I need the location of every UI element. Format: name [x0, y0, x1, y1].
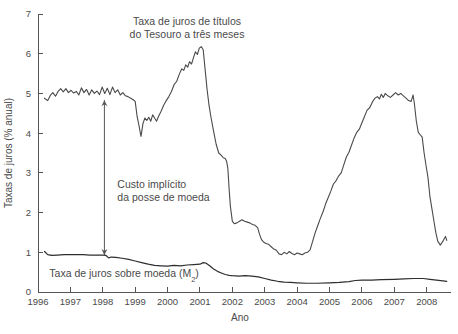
y-tick-label: 1 — [26, 247, 31, 258]
x-tick-label: 2001 — [189, 296, 210, 307]
chart-axes — [38, 14, 451, 292]
x-axis-tick-labels: 1996199719981999200020012002200320042005… — [27, 296, 437, 307]
x-tick-label: 2002 — [222, 296, 243, 307]
money-rate-label: Taxa de juros sobre moeda (M2) — [49, 267, 199, 284]
x-tick-label: 2006 — [351, 296, 372, 307]
implicit-cost-arrow — [101, 100, 107, 255]
x-tick-label: 2005 — [319, 296, 340, 307]
y-tick-label: 4 — [26, 128, 31, 139]
y-tick-label: 2 — [26, 207, 31, 218]
x-axis-title: Ano — [231, 312, 249, 323]
x-tick-label: 2008 — [416, 296, 437, 307]
x-tick-label: 1998 — [92, 296, 113, 307]
chart-annotations: Taxa de juros de títulosdo Tesouro a trê… — [49, 15, 244, 283]
interest-rates-line-chart: 01234567 1996199719981999200020012002200… — [0, 0, 458, 334]
y-tick-label: 5 — [26, 88, 31, 99]
x-tick-label: 2003 — [254, 296, 275, 307]
implicit-cost-label: Custo implícitoda posse de moeda — [117, 178, 209, 203]
y-tick-label: 6 — [26, 48, 31, 59]
x-tick-label: 1999 — [125, 296, 146, 307]
treasury-bill-label: Taxa de juros de títulosdo Tesouro a trê… — [130, 15, 245, 40]
y-axis-title: Taxas de juros (% anual) — [3, 98, 14, 208]
x-tick-label: 1996 — [27, 296, 48, 307]
x-tick-label: 2007 — [384, 296, 405, 307]
y-tick-label: 3 — [26, 167, 31, 178]
x-tick-label: 2000 — [157, 296, 178, 307]
x-tick-label: 1997 — [60, 296, 81, 307]
y-tick-label: 7 — [26, 8, 31, 19]
y-axis-tick-labels: 01234567 — [26, 8, 31, 297]
x-tick-label: 2004 — [287, 296, 308, 307]
chart-figure: 01234567 1996199719981999200020012002200… — [0, 0, 458, 334]
